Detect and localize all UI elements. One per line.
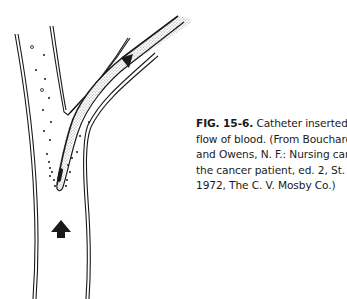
vessel-left-wall	[15, 34, 38, 299]
caption-line-3: and Owens, N. F.: Nursing care of	[196, 147, 346, 163]
blood-flow-arrow-icon	[51, 220, 71, 238]
figure-label: FIG. 15-6.	[196, 117, 253, 129]
catheter	[56, 16, 192, 191]
caption-line-1: FIG. 15-6. Catheter inserted against	[196, 116, 346, 132]
caption-line-4: the cancer patient, ed. 2, St. Louis,	[196, 163, 346, 179]
caption-line-2: flow of blood. (From Bouchard, R.,	[196, 132, 346, 148]
figure-caption: FIG. 15-6. Catheter inserted against flo…	[196, 116, 346, 194]
caption-line-5: 1972, The C. V. Mosby Co.)	[196, 178, 346, 194]
